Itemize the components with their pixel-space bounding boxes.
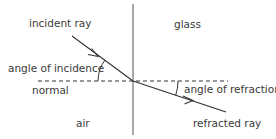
diagram-svg: incident ray glass angle of incidence no… (0, 0, 276, 139)
incident-ray-line (72, 36, 133, 81)
air-label: air (76, 117, 90, 129)
normal-label: normal (32, 84, 69, 96)
glass-label: glass (174, 18, 201, 30)
refraction-angle-arc (176, 81, 178, 95)
incident-ray-label: incident ray (29, 17, 91, 29)
refracted-arrowhead-icon (183, 96, 193, 104)
angle-of-refraction-label: angle of refraction (184, 83, 276, 95)
incident-arrowhead-icon (88, 49, 98, 57)
refraction-diagram: incident ray glass angle of incidence no… (0, 0, 276, 139)
angle-of-incidence-label: angle of incidence (8, 62, 104, 74)
refracted-ray-label: refracted ray (193, 117, 261, 129)
